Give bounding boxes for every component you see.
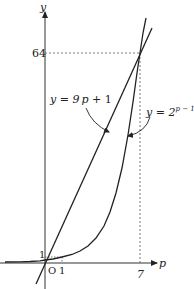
- exp-eq-exponent: p − 1: [175, 105, 194, 113]
- x-tick-1: 1: [59, 265, 65, 276]
- graph-canvas: y p 64 1 O 1 7 y = 9p + 1 y = 2p − 1: [0, 0, 194, 289]
- y-axis-label: y: [39, 1, 47, 14]
- origin-label: O: [48, 265, 56, 276]
- graph-figure: y p 64 1 O 1 7 y = 9p + 1 y = 2p − 1: [0, 0, 194, 289]
- y-tick-1: 1: [39, 249, 45, 260]
- x-axis-label: p: [159, 257, 166, 270]
- y-tick-64: 64: [32, 47, 46, 60]
- exponential-curve: [5, 18, 146, 262]
- line-eq-var: p: [81, 93, 88, 106]
- line-curve: [36, 28, 152, 284]
- line-equation-label: y = 9p + 1: [49, 93, 112, 106]
- line-eq-rhs: + 1: [88, 93, 111, 106]
- line-label-pointer: [86, 108, 109, 132]
- line-eq-lhs: y = 9: [49, 93, 79, 106]
- exp-eq-base: y = 2: [145, 106, 175, 119]
- exp-label-pointer: [128, 117, 150, 136]
- x-tick-7: 7: [137, 268, 144, 281]
- exp-equation-label: y = 2p − 1: [145, 105, 194, 119]
